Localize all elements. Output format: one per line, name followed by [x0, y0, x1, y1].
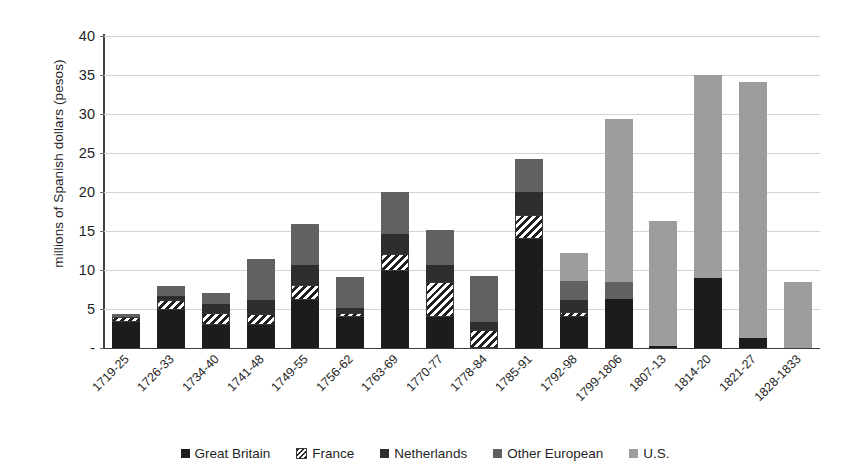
legend-item[interactable]: U.S. — [629, 446, 669, 461]
us-swatch-icon — [629, 449, 638, 458]
y-axis-title: millions of Spanish dollars (pesos) — [51, 14, 66, 314]
bar-segment — [560, 317, 588, 348]
bar-segment — [560, 281, 588, 300]
bar-group — [605, 36, 633, 348]
bar-segment — [470, 322, 498, 330]
bar-segment — [605, 299, 633, 348]
bar-segment — [649, 346, 677, 348]
bar-segment — [336, 317, 364, 348]
gb-swatch-icon — [181, 449, 190, 458]
bar-segment — [381, 192, 409, 234]
bar-segment — [560, 312, 588, 317]
bar-segment — [112, 317, 140, 322]
bar-segment — [157, 286, 185, 295]
x-axis-tick-label: 1770-77 — [403, 352, 445, 394]
x-axis-tick-label: 1749-55 — [269, 352, 311, 394]
bar-segment — [694, 278, 722, 348]
bar-segment — [426, 317, 454, 348]
y-axis-tick-mark — [100, 348, 104, 349]
bar-segment — [157, 310, 185, 348]
bar-segment — [336, 308, 364, 313]
bar-group — [426, 36, 454, 348]
x-axis-tick-label: 1814-20 — [672, 352, 714, 394]
x-axis-tick-label: 1756-62 — [314, 352, 356, 394]
bar-group — [649, 36, 677, 348]
bar-segment — [381, 234, 409, 254]
bar-segment — [470, 276, 498, 322]
bar-segment — [336, 277, 364, 308]
bar-segment — [291, 265, 319, 285]
legend-item-label: Netherlands — [394, 446, 467, 461]
legend-item-label: France — [312, 446, 354, 461]
bar-group — [157, 36, 185, 348]
x-axis-tick-label: 1799-1806 — [572, 352, 624, 404]
bar-group — [694, 36, 722, 348]
x-axis-tick-label: 1792-98 — [537, 352, 579, 394]
bar-segment — [157, 296, 185, 301]
france-swatch-icon — [296, 448, 307, 459]
y-axis-tick-label: 30 — [79, 106, 95, 122]
x-axis-tick-label: 1763-69 — [358, 352, 400, 394]
bar-segment — [247, 314, 275, 325]
bar-group — [470, 36, 498, 348]
bar-segment — [381, 271, 409, 348]
y-axis-tick-label: 20 — [79, 184, 95, 200]
bar-segment — [202, 304, 230, 313]
bar-segment — [605, 119, 633, 282]
bar-segment — [515, 192, 543, 215]
bar-segment — [515, 239, 543, 348]
legend-item[interactable]: Netherlands — [380, 446, 467, 461]
bar-segment — [202, 325, 230, 348]
bar-group — [560, 36, 588, 348]
bar-segment — [515, 215, 543, 239]
bar-group — [112, 36, 140, 348]
netherlands-swatch-icon — [380, 449, 389, 458]
y-axis-tick-label: - — [90, 340, 95, 356]
bar-segment — [291, 224, 319, 265]
bar-segment — [247, 325, 275, 348]
x-axis-tick-label: 1778-84 — [448, 352, 490, 394]
bar-segment — [470, 330, 498, 348]
bar-group — [336, 36, 364, 348]
bar-segment — [291, 300, 319, 348]
legend-item[interactable]: Great Britain — [181, 446, 271, 461]
x-axis-tick-label: 1821-27 — [716, 352, 758, 394]
bar-segment — [157, 300, 185, 309]
legend-item[interactable]: France — [296, 446, 354, 461]
x-axis-tick-label: 1741-48 — [224, 352, 266, 394]
bars-layer — [104, 36, 820, 348]
bar-segment — [739, 82, 767, 338]
legend-item-label: U.S. — [643, 446, 669, 461]
bar-segment — [112, 322, 140, 348]
x-axis-tick-label: 1828-1833 — [751, 352, 803, 404]
x-axis-tick-labels: 1719-251726-331734-401741-481749-551756-… — [104, 352, 820, 438]
legend-item-label: Other European — [507, 446, 603, 461]
bar-segment — [649, 221, 677, 346]
bar-segment — [426, 230, 454, 265]
y-axis-tick-label: 40 — [79, 28, 95, 44]
y-axis-tick-label: 15 — [79, 223, 95, 239]
bar-segment — [694, 75, 722, 278]
legend-item[interactable]: Other European — [493, 446, 603, 461]
bar-group — [247, 36, 275, 348]
bar-segment — [426, 282, 454, 317]
x-axis-tick-label: 1734-40 — [179, 352, 221, 394]
bar-group — [515, 36, 543, 348]
bar-segment — [202, 313, 230, 325]
plot-area: -510152025303540 — [104, 36, 820, 348]
bar-segment — [426, 265, 454, 281]
legend-item-label: Great Britain — [195, 446, 271, 461]
y-axis-tick-label: 10 — [79, 262, 95, 278]
bar-segment — [112, 314, 140, 317]
bar-segment — [247, 300, 275, 315]
bar-segment — [381, 254, 409, 270]
y-axis-tick-label: 35 — [79, 67, 95, 83]
bar-segment — [515, 159, 543, 192]
x-axis-tick-label: 1785-91 — [493, 352, 535, 394]
bar-group — [381, 36, 409, 348]
chart-legend: Great BritainFranceNetherlandsOther Euro… — [0, 446, 850, 461]
y-axis-tick-label: 5 — [87, 301, 95, 317]
bar-group — [784, 36, 812, 348]
x-axis-tick-label: 1807-13 — [627, 352, 669, 394]
bar-segment — [560, 253, 588, 281]
